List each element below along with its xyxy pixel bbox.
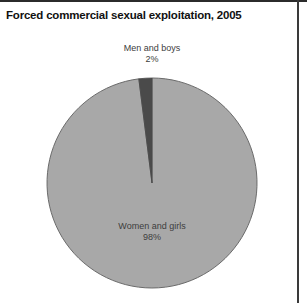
- label-men-and-boys: Men and boys 2%: [92, 43, 212, 65]
- label-women-and-girls: Women and girls 98%: [92, 221, 212, 243]
- label-women-and-girls-percent: 98%: [92, 232, 212, 243]
- label-men-and-boys-name: Men and boys: [124, 43, 181, 53]
- label-women-and-girls-name: Women and girls: [118, 221, 185, 231]
- chart-figure: Forced commercial sexual exploitation, 2…: [0, 0, 307, 303]
- label-men-and-boys-percent: 2%: [92, 54, 212, 65]
